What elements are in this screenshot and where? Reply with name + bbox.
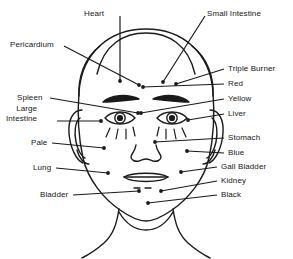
pupil-left [118, 116, 123, 121]
neck-right [173, 209, 210, 258]
leader-dot-kidney [159, 189, 163, 193]
leader-dot-pale [102, 146, 106, 150]
leader-line-kidney [161, 181, 217, 191]
label-pale: Pale [31, 138, 47, 148]
face-line-drawing [0, 0, 293, 259]
label-red: Red [228, 79, 243, 89]
leader-dot-heart [118, 79, 122, 83]
leader-dot-liver [186, 118, 190, 122]
leader-dot-pericardium [137, 83, 141, 87]
leader-dot-blue [185, 149, 189, 153]
cheek-lines-right [157, 127, 186, 139]
label-large-intestine: Large Intestine [6, 104, 37, 123]
leader-line-gall-bladder [181, 167, 217, 172]
face-organ-diagram: HeartPericardiumSpleenLarge IntestinePal… [0, 0, 293, 259]
leader-dot-large-intestine [99, 119, 103, 123]
label-black: Black [221, 190, 241, 200]
leader-dot-lung [106, 171, 110, 175]
leader-dot-red [141, 85, 145, 89]
pupil-right [170, 116, 175, 121]
leader-line-small-intestine [163, 16, 205, 82]
nose [131, 145, 161, 161]
leader-dot-stomach [153, 140, 157, 144]
leader-dot-bladder [137, 189, 141, 193]
leader-line-pericardium [64, 46, 139, 85]
label-kidney: Kidney [221, 176, 246, 186]
label-yellow: Yellow [228, 94, 251, 104]
label-spleen: Spleen [17, 93, 43, 103]
cheek-lines-left [106, 127, 135, 139]
eyebrow-right [153, 95, 189, 102]
hairline-arc [97, 33, 195, 74]
eyebrow-left [103, 95, 139, 102]
leader-dot-black [146, 201, 150, 205]
label-gall-bladder: Gall Bladder [221, 162, 266, 172]
leader-line-bladder [73, 191, 139, 195]
label-lung: Lung [33, 163, 51, 173]
leader-line-stomach [155, 138, 224, 142]
leader-dot-small-intestine [161, 80, 165, 84]
label-blue: Blue [228, 148, 244, 158]
leader-line-lung [56, 168, 108, 173]
label-small-intestine: Small Intestine [207, 9, 261, 19]
label-heart: Heart [84, 9, 104, 19]
label-bladder: Bladder [40, 190, 68, 200]
leader-line-triple-burner [176, 69, 224, 84]
label-stomach: Stomach [228, 133, 260, 143]
label-liver: Liver [228, 109, 246, 119]
hair-right [192, 46, 213, 96]
leader-dot-yellow [139, 111, 143, 115]
neck-left [82, 209, 119, 258]
label-pericardium: Pericardium [10, 40, 54, 50]
leader-dot-gall-bladder [179, 170, 183, 174]
hair-left [79, 46, 100, 96]
head-outline [78, 29, 214, 221]
label-triple-burner: Triple Burner [228, 64, 275, 74]
leader-line-liver [188, 114, 224, 120]
